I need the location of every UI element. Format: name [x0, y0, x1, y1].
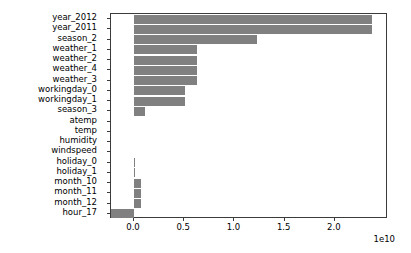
bar-row: [111, 86, 386, 95]
y-tick-label-weather_3: weather_3: [53, 75, 98, 84]
x-axis-offset-text: 1e10: [374, 234, 395, 244]
y-tick-mark: [107, 110, 110, 111]
y-tick-mark: [107, 69, 110, 70]
y-tick-mark: [107, 18, 110, 19]
bar-row: [111, 158, 386, 167]
bar-row: [111, 56, 386, 65]
bar-weather_1: [134, 45, 197, 54]
y-tick-mark: [107, 100, 110, 101]
y-tick-label-workingday_1: workingday_1: [38, 95, 97, 104]
y-tick-mark: [107, 39, 110, 40]
bar-weather_3: [134, 76, 197, 85]
bar-row: [111, 148, 386, 157]
chart-figure: year_2012year_2011season_2weather_1weath…: [0, 0, 411, 253]
y-tick-label-weather_2: weather_2: [53, 54, 98, 63]
bar-month_11: [134, 189, 141, 198]
y-tick-label-month_11: month_11: [54, 187, 97, 196]
bar-row: [111, 97, 386, 106]
y-tick-label-month_10: month_10: [54, 177, 97, 186]
bar-row: [111, 179, 386, 188]
bar-row: [111, 138, 386, 147]
y-tick-label-weather_1: weather_1: [53, 44, 98, 53]
y-tick-mark: [107, 151, 110, 152]
bar-row: [111, 25, 386, 34]
bar-year_2012: [134, 15, 372, 24]
bar-holiday_0: [134, 158, 135, 167]
y-tick-label-month_12: month_12: [54, 198, 97, 207]
x-tick-label-2.0: 2.0: [314, 222, 354, 232]
y-tick-mark: [107, 141, 110, 142]
bar-year_2011: [134, 25, 372, 34]
y-tick-mark: [107, 28, 110, 29]
bar-weather_2: [134, 56, 197, 65]
x-tick-label-0.0: 0.0: [113, 222, 153, 232]
bar-workingday_1: [134, 97, 185, 106]
y-tick-mark: [107, 172, 110, 173]
y-tick-label-windspeed: windspeed: [51, 146, 97, 155]
bar-row: [111, 168, 386, 177]
plot-axes-frame: [110, 13, 387, 218]
y-tick-mark: [107, 80, 110, 81]
bar-row: [111, 189, 386, 198]
bar-row: [111, 45, 386, 54]
y-tick-mark: [107, 162, 110, 163]
bar-month_12: [134, 199, 141, 208]
y-tick-mark: [107, 213, 110, 214]
y-tick-mark: [107, 49, 110, 50]
bar-season_3: [134, 107, 145, 116]
bar-row: [111, 209, 386, 218]
bar-row: [111, 107, 386, 116]
y-tick-mark: [107, 59, 110, 60]
y-tick-label-year_2011: year_2011: [52, 23, 97, 32]
bar-month_10: [134, 179, 141, 188]
y-tick-label-atemp: atemp: [70, 116, 97, 125]
y-tick-label-year_2012: year_2012: [52, 13, 97, 22]
bar-weather_4: [134, 66, 197, 75]
bar-season_2: [134, 35, 257, 44]
bar-row: [111, 127, 386, 136]
y-tick-label-workingday_0: workingday_0: [38, 85, 97, 94]
bar-row: [111, 66, 386, 75]
bar-workingday_0: [134, 86, 185, 95]
x-tick-label-1.0: 1.0: [213, 222, 253, 232]
bar-row: [111, 117, 386, 126]
y-tick-label-weather_4: weather_4: [53, 64, 98, 73]
y-tick-mark: [107, 192, 110, 193]
bar-hour_17: [111, 209, 134, 218]
y-tick-label-holiday_1: holiday_1: [56, 167, 97, 176]
bar-row: [111, 199, 386, 208]
y-tick-mark: [107, 131, 110, 132]
x-tick-mark: [334, 218, 335, 221]
y-tick-label-humidity: humidity: [59, 136, 97, 145]
y-axis-tick-labels: year_2012year_2011season_2weather_1weath…: [0, 13, 105, 218]
y-tick-label-season_2: season_2: [57, 34, 97, 43]
y-tick-mark: [107, 182, 110, 183]
y-tick-mark: [107, 203, 110, 204]
plot-area: [111, 14, 386, 217]
x-tick-mark: [183, 218, 184, 221]
x-tick-mark: [284, 218, 285, 221]
y-tick-label-temp: temp: [75, 126, 97, 135]
bar-row: [111, 35, 386, 44]
x-tick-label-1.5: 1.5: [264, 222, 304, 232]
y-tick-mark: [107, 90, 110, 91]
x-tick-mark: [233, 218, 234, 221]
x-tick-label-0.5: 0.5: [163, 222, 203, 232]
x-tick-mark: [133, 218, 134, 221]
bar-holiday_1: [134, 168, 135, 177]
bar-row: [111, 15, 386, 24]
y-tick-label-holiday_0: holiday_0: [56, 157, 97, 166]
y-tick-label-season_3: season_3: [57, 105, 97, 114]
bar-row: [111, 76, 386, 85]
y-tick-label-hour_17: hour_17: [62, 208, 97, 217]
y-tick-mark: [107, 121, 110, 122]
